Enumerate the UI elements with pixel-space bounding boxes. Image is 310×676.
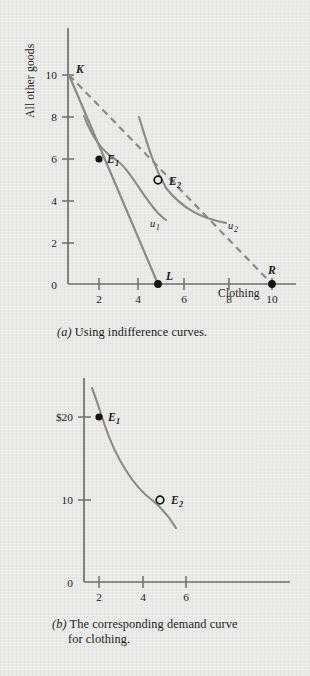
caption-b-line2: for clothing. xyxy=(52,632,282,647)
panel-a-xtick-4: 4 xyxy=(135,293,141,305)
point-label-r: R xyxy=(267,264,276,277)
panel-a-xtick-10: 10 xyxy=(266,293,278,305)
panel-a-plot: 10 8 6 4 2 0 2 4 6 8 10 xyxy=(0,0,310,340)
point-marker-r xyxy=(268,280,276,288)
point-marker-e2-panel-a xyxy=(154,176,162,184)
curve-label-u1: u xyxy=(150,218,155,229)
caption-a-text: Using indifference curves. xyxy=(72,325,208,339)
point-label-e2-panel-a: E xyxy=(168,175,177,188)
demand-curve xyxy=(92,388,176,528)
point-label-e1-panel-a: E xyxy=(106,153,115,166)
panel-a-ytick-2: 2 xyxy=(51,237,57,249)
curve-label-u2-sub: 2 xyxy=(234,225,238,234)
point-label-e2-panel-b: E xyxy=(170,494,179,507)
panel-a-ytick-8: 8 xyxy=(51,111,57,123)
point-label-e2-sub-panel-a: 2 xyxy=(176,181,181,190)
panel-a-xtick-8: 8 xyxy=(226,293,232,305)
panel-a-ytick-10: 10 xyxy=(46,69,58,81)
caption-b-prefix: (b) xyxy=(52,617,67,631)
panel-b-xtick-2: 2 xyxy=(96,591,102,603)
point-label-e2-sub-panel-b: 2 xyxy=(178,500,183,509)
curve-label-u2: u xyxy=(228,220,233,231)
point-label-e1-panel-b: E xyxy=(107,411,116,424)
panel-a-indifference-curves: All other goods Clothing 10 8 6 4 2 0 xyxy=(0,0,310,340)
caption-a-prefix: (a) xyxy=(57,325,72,339)
panel-a-xtick-6: 6 xyxy=(181,293,187,305)
panel-b-ytick-0: 0 xyxy=(67,577,73,589)
curve-label-u1-sub: 1 xyxy=(156,223,160,232)
point-label-k: K xyxy=(75,63,85,76)
panel-b-ytick-10: 10 xyxy=(62,494,74,506)
point-marker-e2-panel-b xyxy=(156,496,164,504)
point-marker-e1-panel-b xyxy=(95,413,102,420)
caption-panel-b: (b) The corresponding demand curvefor cl… xyxy=(52,617,282,646)
panel-b-xtick-4: 4 xyxy=(140,591,146,603)
point-marker-e1-panel-a xyxy=(95,155,102,162)
caption-b-line1: The corresponding demand curve xyxy=(67,617,238,631)
point-label-e1-sub-panel-a: 1 xyxy=(115,159,119,168)
caption-panel-a: (a) Using indifference curves. xyxy=(57,325,207,340)
point-label-e1-sub-panel-b: 1 xyxy=(116,417,120,426)
point-marker-l xyxy=(154,280,162,288)
budget-line-kl xyxy=(69,75,158,284)
panel-a-ytick-4: 4 xyxy=(51,195,57,207)
panel-a-ytick-6: 6 xyxy=(51,153,57,165)
panel-a-ytick-0: 0 xyxy=(51,279,57,291)
point-label-l: L xyxy=(165,270,173,283)
panel-a-xtick-2: 2 xyxy=(96,293,102,305)
panel-b-ytick-20: $20 xyxy=(56,411,73,423)
figure-container: All other goods Clothing 10 8 6 4 2 0 xyxy=(0,0,310,676)
panel-b-xtick-6: 6 xyxy=(183,591,189,603)
